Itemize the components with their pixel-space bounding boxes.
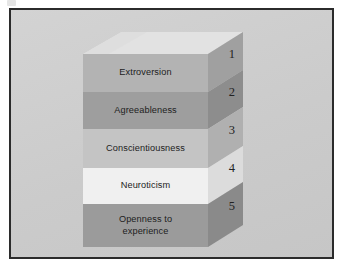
scan-artifact [7,0,16,6]
figure-frame: Extroversion 1 Agreeableness 2 Conscient… [9,8,334,259]
layer-label: Openness to experience [119,214,172,237]
figure-background: Extroversion 1 Agreeableness 2 Conscient… [11,10,332,257]
layer-number: 3 [229,123,235,138]
figure-canvas: Extroversion 1 Agreeableness 2 Conscient… [0,0,343,267]
personality-stack: Extroversion 1 Agreeableness 2 Conscient… [83,32,263,247]
layer-label: Conscientiousness [106,143,185,155]
stack-layer-neuroticism[interactable]: Neuroticism [83,168,208,204]
layer-label: Agreeableness [114,105,177,117]
stack-layer-openness[interactable]: Openness to experience [83,204,208,247]
layer-label: Extroversion [119,67,171,79]
stack-layer-conscientiousness[interactable]: Conscientiousness [83,129,208,168]
stack-layer-extroversion[interactable]: Extroversion [83,54,208,92]
layer-number: 5 [229,199,235,214]
layer-number: 4 [229,161,235,176]
layer-label: Neuroticism [121,180,171,192]
stack-layer-agreeableness[interactable]: Agreeableness [83,92,208,129]
layer-number: 1 [229,47,235,62]
layer-number: 2 [229,85,235,100]
